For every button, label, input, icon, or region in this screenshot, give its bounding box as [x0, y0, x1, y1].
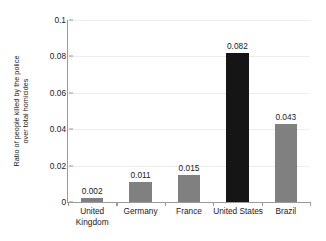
x-axis-category-label: United States [213, 206, 261, 217]
x-axis-labels: UnitedKingdomGermanyFranceUnited StatesB… [68, 206, 310, 238]
bar[interactable] [129, 182, 151, 202]
x-axis-category-label: France [165, 206, 213, 217]
bar-group[interactable]: 0.002 [81, 186, 103, 202]
gridline [68, 202, 310, 203]
bar-value-label: 0.043 [275, 112, 296, 122]
plot-area: 00.020.040.060.080.1 0.0020.0110.0150.08… [68, 20, 310, 202]
bar[interactable] [81, 198, 103, 202]
x-axis-category-label-line: United States [213, 206, 261, 217]
y-axis-tick: 0.1 [54, 16, 68, 25]
bars-layer: 0.0020.0110.0150.0820.043 [68, 20, 310, 202]
x-axis-category-label-line: United [68, 206, 116, 217]
bar[interactable] [178, 175, 200, 202]
x-axis-category-label: UnitedKingdom [68, 206, 116, 227]
y-axis-tick-label: 0.02 [50, 161, 66, 170]
y-axis-tick: 0 [61, 198, 68, 207]
y-axis-title-line-1: Ratio of people killed by the police [12, 56, 22, 167]
bar-group[interactable]: 0.082 [226, 41, 248, 202]
x-axis-tick-mark [310, 202, 311, 206]
bar[interactable] [226, 53, 248, 202]
bar[interactable] [275, 124, 297, 202]
y-axis-title-line-2: over total homicides [21, 79, 31, 144]
bar-chart: Ratio of people killed by the police ove… [0, 0, 326, 241]
bar-value-label: 0.011 [131, 170, 151, 180]
bar-value-label: 0.015 [179, 163, 200, 173]
bar-group[interactable]: 0.043 [275, 112, 297, 202]
y-axis-tick: 0.02 [50, 161, 68, 170]
x-axis-category-label-line: France [165, 206, 213, 217]
y-axis-tick-label: 0.06 [50, 88, 66, 97]
y-axis-tick: 0.04 [50, 125, 68, 134]
x-axis-category-label-line: Germany [116, 206, 164, 217]
x-axis-category-label-line: Kingdom [68, 217, 116, 228]
bar-value-label: 0.082 [227, 41, 248, 51]
y-axis-tick-label: 0.08 [50, 52, 66, 61]
bar-group[interactable]: 0.015 [178, 163, 200, 202]
y-axis-tick: 0.08 [50, 52, 68, 61]
y-axis-tick-label: 0.04 [50, 125, 66, 134]
x-axis-category-label-line: Brazil [262, 206, 310, 217]
bar-value-label: 0.002 [82, 186, 103, 196]
y-axis-tick: 0.06 [50, 88, 68, 97]
y-axis-title: Ratio of people killed by the police ove… [10, 20, 32, 202]
bar-group[interactable]: 0.011 [129, 170, 151, 202]
x-axis-category-label: Brazil [262, 206, 310, 217]
y-axis-tick-label: 0.1 [54, 16, 66, 25]
x-axis-category-label: Germany [116, 206, 164, 217]
y-axis-tick-label: 0 [61, 198, 66, 207]
